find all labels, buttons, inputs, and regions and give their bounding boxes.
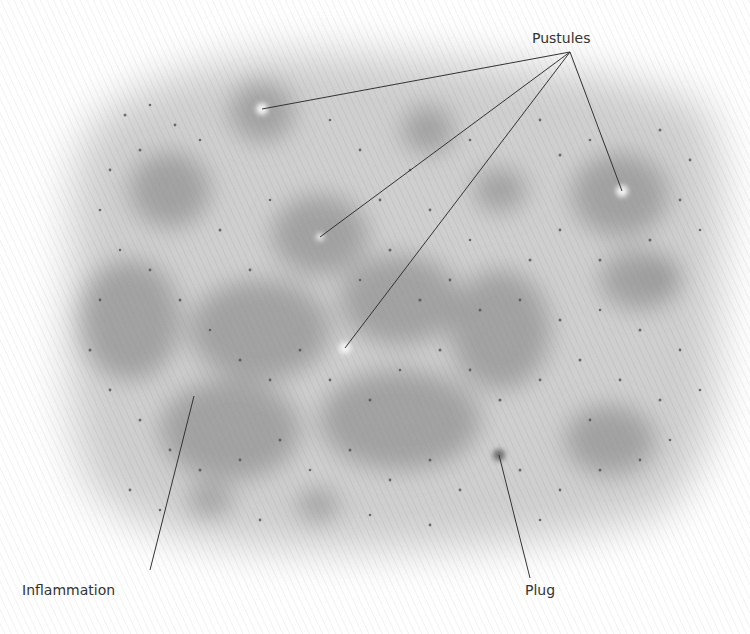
label-inflammation: Inflammation [22, 582, 115, 598]
skin-illustration [0, 0, 750, 634]
label-pustules: Pustules [532, 30, 591, 46]
label-plug: Plug [525, 582, 555, 598]
